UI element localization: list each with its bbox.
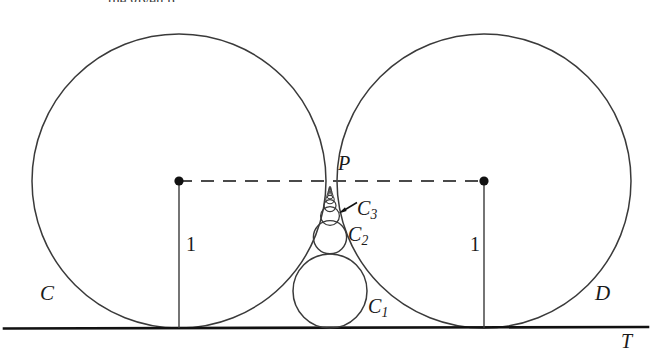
label-c2-base: C xyxy=(348,223,361,245)
label-c1-subscript: 1 xyxy=(382,305,389,320)
label-radius-left-one: 1 xyxy=(186,234,196,254)
inscribed-circle-3 xyxy=(321,207,340,226)
label-circle-d: D xyxy=(595,283,610,304)
c3-pointer-arrow xyxy=(339,203,358,214)
center-dot-right xyxy=(479,176,488,185)
figure-container: the given p xyxy=(0,0,652,355)
label-c2-subscript: 2 xyxy=(362,233,369,248)
label-tangent-line-t: T xyxy=(621,331,632,351)
label-c3-subscript: 3 xyxy=(371,207,378,222)
inscribed-circle-1 xyxy=(293,254,367,328)
label-c3-base: C xyxy=(357,197,370,219)
center-dot-left xyxy=(174,176,183,185)
label-tangent-point-p: P xyxy=(338,153,350,173)
label-inscribed-circle-1: C1 xyxy=(368,296,388,320)
geometry-canvas xyxy=(0,0,652,355)
label-c1-base: C xyxy=(368,295,381,317)
label-circle-c: C xyxy=(40,283,54,304)
label-inscribed-circle-3: C3 xyxy=(357,198,377,222)
label-radius-right-one: 1 xyxy=(470,234,480,254)
label-inscribed-circle-2: C2 xyxy=(348,224,368,248)
